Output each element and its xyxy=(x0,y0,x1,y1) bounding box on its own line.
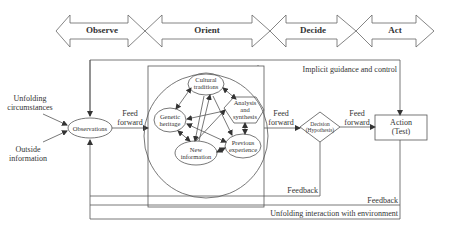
input-unfolding-line2: circumstances xyxy=(0,103,60,112)
genetic-line2: heritage xyxy=(156,120,184,127)
decision-label: Decision (Hypothesis) xyxy=(305,121,335,133)
analysis-line1: Analysis xyxy=(230,99,260,106)
implicit-guidance-label: Implicit guidance and control xyxy=(290,65,397,74)
observations-label: Observations xyxy=(70,124,110,133)
action-label: Action (Test) xyxy=(375,118,427,136)
input-unfolding-circumstances: Unfolding circumstances xyxy=(0,94,60,112)
genetic-line1: Genetic xyxy=(156,113,184,120)
analysis-line3: synthesis xyxy=(230,113,260,120)
new-line1: New xyxy=(178,146,214,153)
analysis-line2: and xyxy=(230,106,260,113)
previous-experience-label: Previous experience xyxy=(227,139,259,153)
unfolding-interaction-label: Unfolding interaction with environment xyxy=(230,209,398,218)
feed-forward-3-line1: Feed xyxy=(342,109,372,118)
feed-forward-3-label: Feed forward xyxy=(342,109,372,127)
decision-line2: (Hypothesis) xyxy=(305,127,335,133)
input-outside-line2: information xyxy=(0,154,56,163)
feed-forward-2-label: Feed forward xyxy=(266,109,296,127)
phase-label-observe: Observe xyxy=(80,26,124,35)
genetic-heritage-label: Genetic heritage xyxy=(156,113,184,127)
phase-label-act: Act xyxy=(375,26,415,35)
feed-forward-2-line1: Feed xyxy=(266,109,296,118)
phase-label-decide: Decide xyxy=(291,26,335,35)
feed-forward-2-line2: forward xyxy=(266,118,296,127)
input-unfolding-line1: Unfolding xyxy=(0,94,60,103)
feed-forward-1-line2: forward xyxy=(115,118,145,127)
action-line2: (Test) xyxy=(375,127,427,136)
input-outside-line1: Outside xyxy=(0,145,56,154)
cultural-traditions-label: Cultural traditions xyxy=(190,76,222,90)
previous-line1: Previous xyxy=(227,139,259,146)
input-outside-information: Outside information xyxy=(0,145,56,163)
feed-forward-1-line1: Feed xyxy=(115,109,145,118)
feedback-2-label: Feedback xyxy=(350,196,398,205)
action-line1: Action xyxy=(375,118,427,127)
new-line2: information xyxy=(178,153,214,160)
feed-forward-1-label: Feed forward xyxy=(115,109,145,127)
cultural-line2: traditions xyxy=(190,83,222,90)
new-information-label: New information xyxy=(178,146,214,160)
feedback-1-label: Feedback xyxy=(270,186,318,195)
cultural-line1: Cultural xyxy=(190,76,222,83)
orient-circle xyxy=(144,74,268,198)
analysis-synthesis-label: Analysis and synthesis xyxy=(230,99,260,120)
feed-forward-3-line2: forward xyxy=(342,118,372,127)
previous-line2: experience xyxy=(227,146,259,153)
phase-label-orient: Orient xyxy=(185,26,229,35)
